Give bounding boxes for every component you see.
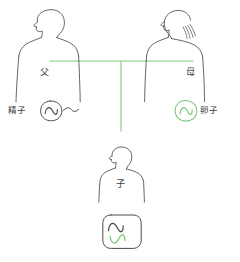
father-label: 父: [40, 68, 49, 77]
ovum-membrane: [175, 101, 197, 121]
zygote-cell: [103, 215, 141, 248]
sperm-cell: [41, 101, 79, 121]
mother-label: 母: [186, 68, 195, 77]
hair-strokes: [183, 25, 195, 39]
sperm-tail: [63, 108, 79, 112]
ovum-label: 卵子: [200, 106, 218, 115]
diagram-canvas: [0, 0, 240, 262]
zygote-maternal-wave: [110, 235, 125, 243]
mother-silhouette: [145, 10, 205, 101]
ovum-cell: [175, 101, 197, 121]
zygote-paternal-wave: [108, 223, 123, 231]
father-silhouette: [16, 10, 80, 102]
inheritance-diagram: 父 母 子 精子 卵子: [0, 0, 240, 262]
sperm-membrane: [41, 101, 62, 121]
sperm-label: 精子: [8, 106, 26, 115]
sperm-paternal-wave: [45, 108, 57, 115]
child-label: 子: [116, 180, 125, 189]
pedigree-lines: [50, 61, 193, 131]
ovum-maternal-wave: [180, 108, 192, 115]
child-silhouette: [99, 147, 145, 202]
